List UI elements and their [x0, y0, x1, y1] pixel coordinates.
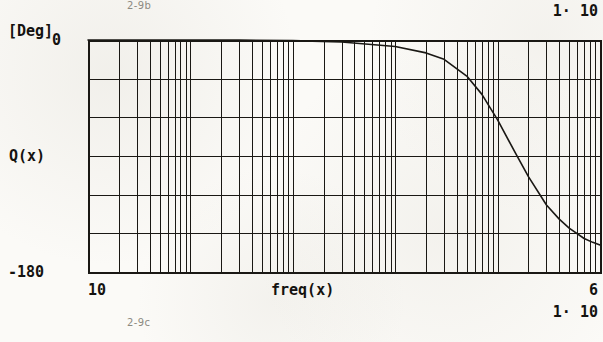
data-series-curve: [88, 40, 600, 245]
grid-horizontal-lines: [88, 41, 600, 273]
bode-phase-plot-screenshot: 2-9b 2-9c 1· 10 [Deg] 0 Q(x) -180 10 fre…: [0, 0, 603, 342]
plot-area: [0, 0, 603, 342]
plot-svg: [0, 0, 603, 342]
